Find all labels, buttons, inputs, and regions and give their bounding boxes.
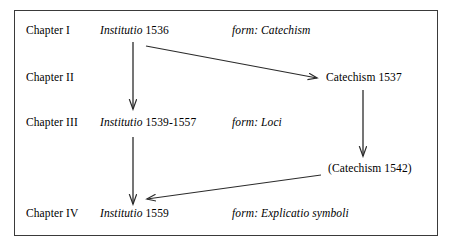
- work-entry-4: Institutio 1559: [100, 208, 169, 220]
- form-label-1: form: Catechism: [232, 25, 310, 37]
- chapter-label-4: Chapter IV: [26, 208, 78, 220]
- form-label-3: form: Loci: [232, 117, 282, 129]
- chapter-label-1: Chapter I: [26, 25, 70, 37]
- chapter-label-3: Chapter III: [26, 117, 78, 129]
- node-catechism-1542: (Catechism 1542): [328, 163, 412, 175]
- work-entry-3: Institutio 1539-1557: [100, 117, 196, 129]
- work-title-4: Institutio: [100, 207, 143, 219]
- work-date-4: 1559: [146, 207, 169, 219]
- work-title-1: Institutio: [100, 24, 143, 36]
- work-entry-1: Institutio 1536: [100, 25, 169, 37]
- work-date-3: 1539-1557: [146, 116, 197, 128]
- work-date-1: 1536: [146, 24, 169, 36]
- chapter-label-2: Chapter II: [26, 72, 74, 84]
- node-catechism-1537: Catechism 1537: [326, 72, 402, 84]
- form-label-4: form: Explicatio symboli: [232, 208, 349, 220]
- work-title-3: Institutio: [100, 116, 143, 128]
